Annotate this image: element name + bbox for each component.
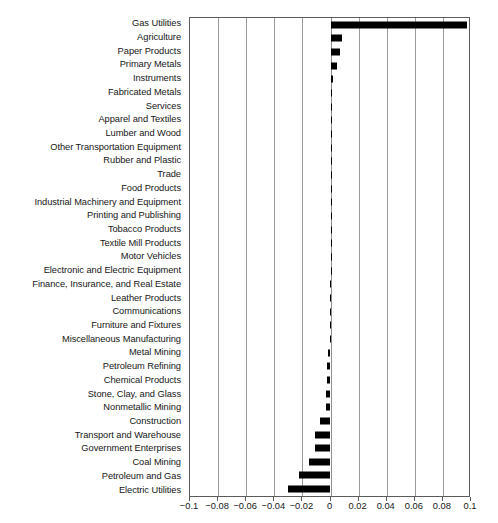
bar [331, 76, 334, 83]
category-label: Primary Metals [0, 58, 185, 72]
category-label: Leather Products [0, 291, 185, 305]
bar-row [190, 45, 469, 59]
tick-label: −0.08 [205, 502, 229, 511]
bar [288, 486, 330, 493]
bar [327, 363, 330, 370]
bar-row [190, 428, 469, 442]
bar [326, 390, 330, 397]
bar [315, 445, 331, 452]
bar-row [190, 414, 469, 428]
bar-row [190, 100, 469, 114]
category-label: Instruments [0, 72, 185, 86]
tick-label: 0.06 [405, 502, 423, 511]
bar [299, 472, 331, 479]
bar-row [190, 237, 469, 251]
bar [331, 185, 332, 192]
bar [326, 404, 330, 411]
category-label: Printing and Publishing [0, 209, 185, 223]
bar [331, 226, 332, 233]
bar [315, 431, 331, 438]
bar [331, 131, 332, 138]
category-label: Agriculture [0, 31, 185, 45]
bar-row [190, 400, 469, 414]
bar-row [190, 482, 469, 496]
category-label: Other Transportation Equipment [0, 140, 185, 154]
tick-label: 0 [327, 502, 332, 511]
bar [330, 322, 331, 329]
horizontal-bar-chart: Gas UtilitiesAgriculturePaper ProductsPr… [0, 0, 498, 523]
category-label: Chemical Products [0, 374, 185, 388]
category-label: Lumber and Wood [0, 127, 185, 141]
category-label: Nonmetallic Mining [0, 401, 185, 415]
tick-label: −0.04 [262, 502, 286, 511]
category-label: Transport and Warehouse [0, 429, 185, 443]
bar-row [190, 277, 469, 291]
bar [331, 90, 333, 97]
bar-row [190, 209, 469, 223]
tick-label: 0.1 [464, 502, 477, 511]
bar [331, 158, 332, 165]
bar-row [190, 264, 469, 278]
category-label: Metal Mining [0, 346, 185, 360]
bar [330, 335, 331, 342]
bar-row [190, 73, 469, 87]
bar-row [190, 114, 469, 128]
bar [330, 281, 331, 288]
bar-row [190, 18, 469, 32]
bar [331, 199, 332, 206]
bars-layer [190, 18, 469, 496]
plot-area [189, 17, 470, 497]
bar [331, 103, 332, 110]
bar-row [190, 291, 469, 305]
bar-row [190, 373, 469, 387]
category-label: Paper Products [0, 44, 185, 58]
bar-row [190, 359, 469, 373]
category-label: Motor Vehicles [0, 250, 185, 264]
category-label: Electric Utilities [0, 483, 185, 497]
bar [331, 213, 332, 220]
tick-label: 0.04 [377, 502, 395, 511]
bar-row [190, 155, 469, 169]
tick-label: −0.06 [233, 502, 257, 511]
bar [330, 308, 331, 315]
bar [331, 240, 332, 247]
bar-row [190, 332, 469, 346]
bar-row [190, 141, 469, 155]
bar [331, 49, 340, 56]
bar [327, 376, 331, 383]
category-label: Tobacco Products [0, 223, 185, 237]
bar-row [190, 469, 469, 483]
category-label: Trade [0, 168, 185, 182]
bar-row [190, 168, 469, 182]
category-label: Rubber and Plastic [0, 154, 185, 168]
bar [328, 349, 331, 356]
category-label: Government Enterprises [0, 442, 185, 456]
plot-inner [190, 18, 469, 496]
category-label: Industrial Machinery and Equipment [0, 195, 185, 209]
bar [331, 117, 332, 124]
bar-row [190, 182, 469, 196]
bar [331, 253, 332, 260]
tick-label: −0.02 [290, 502, 314, 511]
bar [331, 21, 467, 28]
tick-label: 0.02 [349, 502, 367, 511]
category-label: Textile Mill Products [0, 237, 185, 251]
bar-row [190, 346, 469, 360]
bar-row [190, 127, 469, 141]
bar [330, 294, 331, 301]
bar-row [190, 86, 469, 100]
category-label: Food Products [0, 182, 185, 196]
bar [331, 172, 332, 179]
bar-row [190, 223, 469, 237]
value-axis: −0.1−0.08−0.06−0.04−0.0200.020.040.060.0… [189, 497, 470, 523]
category-label: Furniture and Fixtures [0, 319, 185, 333]
bar-row [190, 196, 469, 210]
bar-row [190, 455, 469, 469]
bar-row [190, 32, 469, 46]
bar-row [190, 441, 469, 455]
tick-label: −0.1 [180, 502, 198, 511]
category-axis: Gas UtilitiesAgriculturePaper ProductsPr… [0, 17, 185, 497]
category-label: Stone, Clay, and Glass [0, 387, 185, 401]
bar-row [190, 318, 469, 332]
bar-row [190, 387, 469, 401]
